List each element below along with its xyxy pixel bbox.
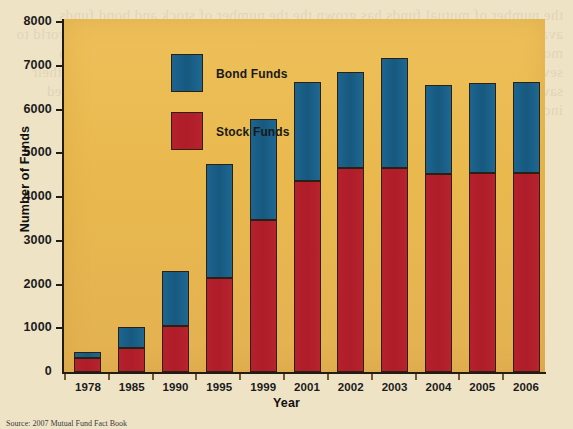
y-tick-label-7000: 7000 [10, 58, 52, 72]
bar-1978[interactable] [74, 352, 101, 372]
x-tick-1985 [108, 374, 110, 380]
bar-segment-bond-1985[interactable] [118, 327, 145, 348]
legend-item-bond-funds[interactable]: Bond Funds [171, 54, 371, 100]
bar-1985[interactable] [118, 327, 145, 372]
legend-swatch-bond-funds [171, 54, 203, 92]
y-tick-3000 [56, 240, 63, 242]
bar-segment-stock-2002[interactable] [337, 168, 364, 372]
legend-label-stock-funds: Stock Funds [216, 125, 290, 139]
x-tick-1978 [64, 374, 66, 380]
bar-segment-stock-2006[interactable] [513, 173, 540, 372]
bar-segment-stock-1995[interactable] [206, 278, 233, 372]
bar-2005[interactable] [469, 83, 496, 372]
bar-segment-bond-2006[interactable] [513, 82, 540, 173]
bar-segment-bond-1990[interactable] [162, 271, 189, 326]
bar-2004[interactable] [425, 85, 452, 372]
bar-segment-stock-1990[interactable] [162, 326, 189, 372]
plot-area: Bond FundsStock Funds [63, 19, 545, 373]
y-tick-8000 [56, 21, 63, 23]
legend-item-stock-funds[interactable]: Stock Funds [171, 112, 371, 158]
bar-segment-bond-1978[interactable] [74, 352, 101, 358]
x-axis-title: Year [0, 396, 573, 410]
y-tick-label-8000: 8000 [10, 14, 52, 28]
x-tick-2006 [502, 374, 504, 380]
bar-segment-stock-1999[interactable] [250, 220, 277, 372]
bar-segment-bond-2004[interactable] [425, 85, 452, 174]
bar-segment-bond-2003[interactable] [381, 58, 408, 167]
y-tick-label-2000: 2000 [10, 277, 52, 291]
x-tick-2001 [283, 374, 285, 380]
y-tick-5000 [56, 152, 63, 154]
bar-segment-stock-1978[interactable] [74, 358, 101, 372]
y-axis-title: Number of Funds [18, 99, 32, 259]
bar-2006[interactable] [513, 82, 540, 372]
x-tick-2005 [458, 374, 460, 380]
x-tick-label-2006: 2006 [500, 381, 552, 393]
legend-label-bond-funds: Bond Funds [216, 67, 287, 81]
y-tick-label-1000: 1000 [10, 320, 52, 334]
bar-segment-stock-2001[interactable] [294, 181, 321, 372]
x-tick-2003 [371, 374, 373, 380]
y-tick-2000 [56, 284, 63, 286]
x-axis-line [62, 372, 546, 374]
bar-1990[interactable] [162, 271, 189, 372]
bar-segment-stock-2004[interactable] [425, 174, 452, 372]
y-tick-7000 [56, 65, 63, 67]
chart-legend: Bond FundsStock Funds [171, 54, 371, 170]
bar-segment-stock-2005[interactable] [469, 173, 496, 372]
bar-segment-stock-1985[interactable] [118, 348, 145, 372]
bar-segment-bond-2005[interactable] [469, 83, 496, 173]
source-note: Source: 2007 Mutual Fund Fact Book [6, 419, 127, 429]
y-tick-4000 [56, 196, 63, 198]
y-tick-6000 [56, 109, 63, 111]
x-tick-2004 [415, 374, 417, 380]
bar-segment-bond-1995[interactable] [206, 164, 233, 279]
legend-swatch-stock-funds [171, 112, 203, 150]
y-tick-label-0: 0 [10, 364, 52, 378]
x-tick-1990 [152, 374, 154, 380]
y-tick-1000 [56, 327, 63, 329]
bar-segment-stock-2003[interactable] [381, 168, 408, 372]
bar-2003[interactable] [381, 58, 408, 372]
figure-container: the number of mutual funds has grown the… [0, 0, 573, 429]
x-tick-1999 [239, 374, 241, 380]
x-tick-2002 [327, 374, 329, 380]
x-tick-1995 [195, 374, 197, 380]
bar-1995[interactable] [206, 164, 233, 372]
